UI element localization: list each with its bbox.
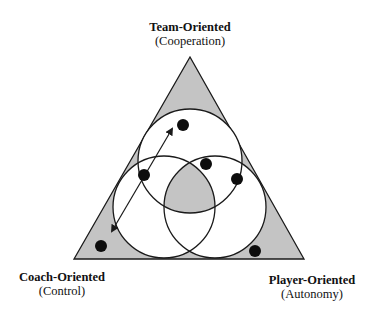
dot-marker [249, 245, 261, 257]
team-oriented-label: Team-Oriented (Cooperation) [130, 20, 250, 48]
coach-oriented-title: Coach-Oriented [4, 270, 120, 284]
dot-marker [231, 173, 243, 185]
dot-marker [95, 240, 107, 252]
player-oriented-subtitle: (Autonomy) [256, 287, 368, 301]
team-oriented-title: Team-Oriented [130, 20, 250, 34]
player-oriented-label: Player-Oriented (Autonomy) [256, 273, 368, 301]
dot-marker [177, 119, 189, 131]
team-oriented-subtitle: (Cooperation) [130, 34, 250, 48]
coach-oriented-label: Coach-Oriented (Control) [4, 270, 120, 298]
dot-marker [138, 169, 150, 181]
player-oriented-title: Player-Oriented [256, 273, 368, 287]
dot-marker [200, 158, 212, 170]
coach-oriented-subtitle: (Control) [4, 284, 120, 298]
